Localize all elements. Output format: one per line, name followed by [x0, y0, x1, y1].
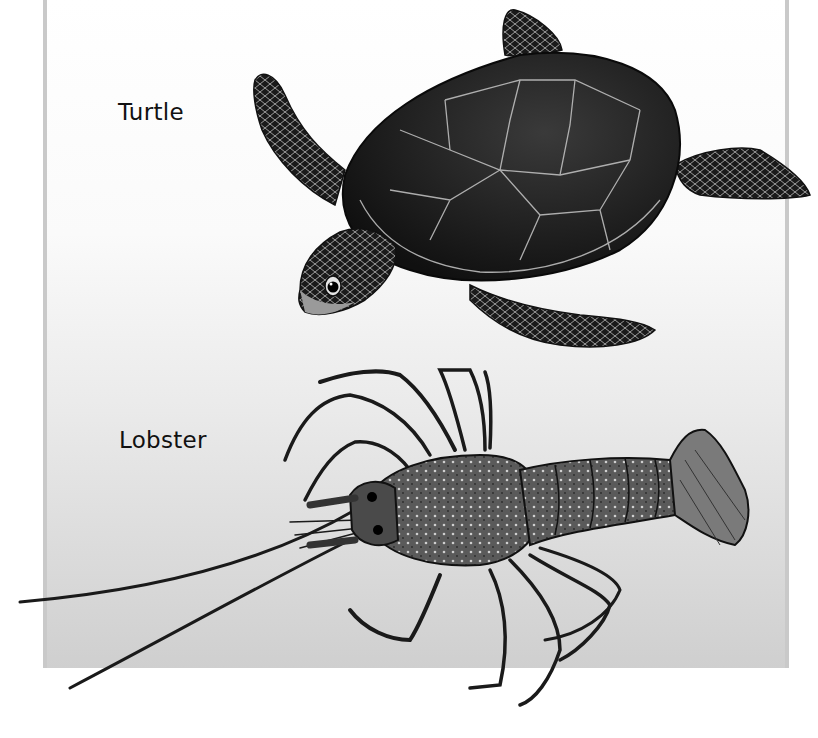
turtle-drawing	[254, 10, 810, 347]
lobster-body	[310, 430, 748, 566]
animal-illustrations	[0, 0, 818, 738]
